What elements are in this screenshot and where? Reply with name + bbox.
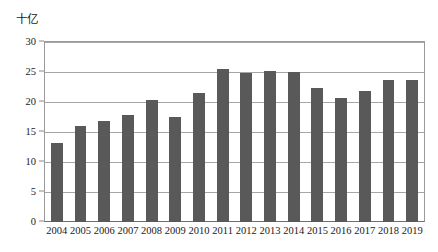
x-axis-tick-label-2016: 2016 <box>329 225 353 236</box>
bar-slot <box>75 42 87 222</box>
x-axis-tick-label-2007: 2007 <box>116 225 140 236</box>
bar-slot <box>98 42 110 222</box>
x-axis-tick-label-2012: 2012 <box>235 225 259 236</box>
x-axis-tick-label-2004: 2004 <box>45 225 69 236</box>
bar-series <box>45 42 424 222</box>
bar-slot <box>193 42 205 222</box>
y-axis-tick-label: 25 <box>26 66 37 77</box>
bar-slot <box>217 42 229 222</box>
bar-slot <box>311 42 323 222</box>
bar-2005[interactable] <box>75 126 87 222</box>
x-axis-tick-labels: 2004200520062007200820092010201120122013… <box>45 225 424 245</box>
bar-2008[interactable] <box>146 100 158 222</box>
x-axis-tick-label-2009: 2009 <box>163 225 187 236</box>
bar-2011[interactable] <box>217 69 229 222</box>
y-axis-tick-label: 0 <box>31 216 36 227</box>
bar-2013[interactable] <box>264 71 276 222</box>
x-axis-tick-label-2018: 2018 <box>377 225 401 236</box>
bar-slot <box>359 42 371 222</box>
y-axis-unit-label: 十亿 <box>16 12 38 26</box>
x-axis-tick-label-2005: 2005 <box>69 225 93 236</box>
bar-slot <box>383 42 395 222</box>
bar-2012[interactable] <box>240 73 252 222</box>
x-axis-tick-label-2006: 2006 <box>92 225 116 236</box>
bar-2004[interactable] <box>51 143 63 222</box>
bar-slot <box>288 42 300 222</box>
bar-slot <box>335 42 347 222</box>
bar-2014[interactable] <box>288 72 300 222</box>
bar-slot <box>240 42 252 222</box>
x-axis-tick-label-2011: 2011 <box>211 225 235 236</box>
bar-2015[interactable] <box>311 88 323 222</box>
y-axis-tick-label: 5 <box>31 186 36 197</box>
bar-slot <box>146 42 158 222</box>
x-axis-tick-label-2014: 2014 <box>282 225 306 236</box>
y-axis-tick-label: 20 <box>26 96 37 107</box>
bar-slot <box>169 42 181 222</box>
y-axis-tick-label: 30 <box>26 36 37 47</box>
bar-2018[interactable] <box>383 80 395 222</box>
bar-slot <box>122 42 134 222</box>
x-axis-tick-label-2010: 2010 <box>187 225 211 236</box>
x-axis-tick-label-2015: 2015 <box>306 225 330 236</box>
bar-2007[interactable] <box>122 115 134 222</box>
bar-2010[interactable] <box>193 93 205 222</box>
x-axis-tick-label-2013: 2013 <box>258 225 282 236</box>
y-axis-tick-label: 10 <box>26 156 37 167</box>
bar-2019[interactable] <box>406 80 418 222</box>
y-axis-tick-labels: 051015202530 <box>0 41 44 222</box>
bar-slot <box>264 42 276 222</box>
x-axis-tick-label-2017: 2017 <box>353 225 377 236</box>
bar-slot <box>406 42 418 222</box>
y-axis-tick-label: 15 <box>26 126 37 137</box>
bar-2009[interactable] <box>169 117 181 222</box>
bar-slot <box>51 42 63 222</box>
bar-2017[interactable] <box>359 91 371 222</box>
x-axis-tick-label-2008: 2008 <box>140 225 164 236</box>
bar-chart: 十亿 051015202530 200420052006200720082009… <box>0 0 438 252</box>
x-axis-tick-label-2019: 2019 <box>400 225 424 236</box>
bar-2016[interactable] <box>335 98 347 222</box>
bar-2006[interactable] <box>98 121 110 222</box>
